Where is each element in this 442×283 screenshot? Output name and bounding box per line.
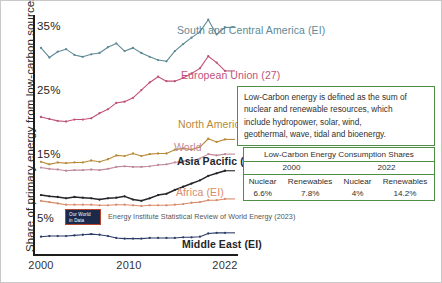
series-point xyxy=(157,59,159,61)
series-point xyxy=(190,36,192,38)
table-value-nuclear-2022: 4% xyxy=(339,187,376,200)
series-point xyxy=(107,204,109,206)
series-point xyxy=(207,55,209,57)
series-point xyxy=(98,204,100,206)
series-point xyxy=(82,118,84,120)
series-point xyxy=(182,43,184,45)
series-point xyxy=(149,153,151,155)
series-point xyxy=(73,234,75,236)
series-point xyxy=(132,97,134,99)
series-point xyxy=(140,155,142,157)
series-point xyxy=(174,237,176,239)
series-point xyxy=(82,161,84,163)
series-point xyxy=(174,161,176,163)
series-point xyxy=(165,80,167,82)
series-point xyxy=(215,232,217,234)
series-point xyxy=(40,166,42,168)
series-point xyxy=(165,152,167,154)
series-point xyxy=(40,236,42,238)
series-point xyxy=(73,161,75,163)
series-point xyxy=(207,199,209,201)
our-world-in-data-logo: Our World in Data xyxy=(65,209,101,225)
series-point xyxy=(107,158,109,160)
series-point xyxy=(57,196,59,198)
series-point xyxy=(174,50,176,52)
series-point xyxy=(123,155,125,157)
table-head-renewables-2000: Renewables xyxy=(281,174,339,187)
logo-line-2: in Data xyxy=(69,218,98,224)
table-value-nuclear-2000: 6.6% xyxy=(244,187,282,200)
series-point xyxy=(48,235,50,237)
series-point xyxy=(140,89,142,91)
table-row: Nuclear Renewables Nuclear Renewables xyxy=(244,174,435,187)
series-point xyxy=(149,197,151,199)
note-line-4: geothermal, wave, tidal and bioenergy. xyxy=(244,128,428,140)
series-point xyxy=(65,162,67,164)
note-line-1: Low-Carbon energy is defined as the sum … xyxy=(244,91,428,103)
series-point xyxy=(90,159,92,161)
table-value-renewables-2000: 7.8% xyxy=(281,187,339,200)
series-point xyxy=(90,233,92,235)
series-label-middle-east: Middle East (EI) xyxy=(182,239,262,250)
series-point xyxy=(123,204,125,206)
series-point xyxy=(82,169,84,171)
x-tick-2022: 2022 xyxy=(212,259,237,271)
series-point xyxy=(98,234,100,236)
series-point xyxy=(115,237,117,239)
series-point xyxy=(215,141,217,143)
series-point xyxy=(132,166,134,168)
series-label-africa: Africa (EI) xyxy=(176,187,224,198)
series-point xyxy=(40,194,42,196)
series-point xyxy=(199,179,201,181)
series-point xyxy=(132,237,134,239)
series-point xyxy=(149,165,151,167)
series-point xyxy=(165,163,167,165)
series-point xyxy=(90,204,92,206)
series-point xyxy=(215,61,217,63)
series-point xyxy=(73,54,75,56)
table-head-nuclear-2022: Nuclear xyxy=(339,174,376,187)
series-point xyxy=(207,175,209,177)
series-point xyxy=(57,161,59,163)
series-point xyxy=(157,194,159,196)
series-point xyxy=(115,42,117,44)
series-point xyxy=(115,196,117,198)
series-point xyxy=(199,201,201,203)
series-point xyxy=(123,50,125,52)
series-point xyxy=(157,204,159,206)
note-line-2: nuclear and renewable resources, which xyxy=(244,103,428,115)
series-point xyxy=(207,138,209,140)
series-point xyxy=(123,195,125,197)
series-point xyxy=(98,198,100,200)
table-row: 2000 2022 xyxy=(244,161,435,174)
series-point xyxy=(165,60,167,62)
series-point xyxy=(140,200,142,202)
series-point xyxy=(207,232,209,234)
series-point xyxy=(65,197,67,199)
series-point xyxy=(57,202,59,204)
series-point xyxy=(140,237,142,239)
series-point xyxy=(73,169,75,171)
series-point xyxy=(73,118,75,120)
series-point xyxy=(123,165,125,167)
series-point xyxy=(65,48,67,50)
series-point xyxy=(132,152,134,154)
series-point xyxy=(65,120,67,122)
series-point xyxy=(107,108,109,110)
series-point xyxy=(82,234,84,236)
series-point xyxy=(40,116,42,118)
series-point xyxy=(107,168,109,170)
chart-figure: Share of primary energy from low-carbon … xyxy=(0,0,442,283)
series-point xyxy=(190,182,192,184)
series-point xyxy=(65,235,67,237)
series-point xyxy=(115,166,117,168)
low-carbon-shares-table: Low-Carbon Energy Consumption Shares 200… xyxy=(243,147,435,201)
x-axis-line xyxy=(33,254,238,256)
table-row: Low-Carbon Energy Consumption Shares xyxy=(244,148,435,162)
series-point xyxy=(98,161,100,163)
series-point xyxy=(157,152,159,154)
series-point xyxy=(98,169,100,171)
series-point xyxy=(165,204,167,206)
series-point xyxy=(48,56,50,58)
series-point xyxy=(82,204,84,206)
